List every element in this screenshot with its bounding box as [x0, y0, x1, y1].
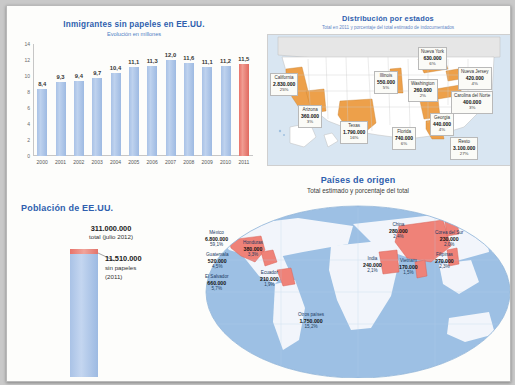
world-map-section: Países de origen Total estimado y porcen…: [203, 174, 511, 379]
bar-category-label: 2004: [110, 159, 121, 165]
bar-rect: [111, 73, 121, 156]
bar-column[interactable]: 8,42000: [37, 44, 47, 156]
world-map-frame: México6.800.00059,1%Guatemala520.0004,5%…: [203, 200, 511, 378]
state-callout[interactable]: Resto3.100.00027%: [450, 137, 478, 160]
state-callout[interactable]: Carolina del Norte400.0003%: [451, 91, 493, 114]
bar-category-label: 2006: [147, 159, 158, 165]
bar-column[interactable]: 10,42004: [111, 44, 121, 156]
country-percent: 59,1%: [205, 242, 228, 248]
y-axis-tick: 0: [27, 153, 30, 159]
bar-value-label: 8,4: [38, 81, 46, 87]
bar-rect: [74, 81, 84, 156]
country-label[interactable]: India240.0002,1%: [363, 256, 382, 274]
country-label[interactable]: El Salvador660.0005,7%: [205, 274, 229, 292]
bar-column[interactable]: 11,22010: [221, 44, 231, 156]
state-callout[interactable]: Georgia440.0004%: [430, 113, 454, 136]
y-axis-tick: 2: [27, 137, 30, 143]
state-callout[interactable]: Washington260.0002%: [408, 79, 438, 102]
state-percent: 3%: [301, 119, 319, 125]
bar-value-label: 11,1: [202, 59, 213, 65]
bar-value-label: 11,3: [147, 58, 158, 64]
bar-category-label: 2008: [183, 159, 194, 165]
country-label[interactable]: Otros países1.750.00015,2%: [298, 312, 324, 330]
state-percent: 5%: [377, 85, 395, 91]
bar-value-label: 11,2: [220, 58, 231, 64]
infographic-poster: Inmigrantes sin papeles en EE.UU. Evoluc…: [6, 5, 511, 382]
country-percent: 4,5%: [206, 264, 228, 270]
us-map-title: Distribución por estados: [263, 14, 511, 24]
state-callout[interactable]: Arizona360.0003%: [298, 105, 322, 128]
us-map-section: Distribución por estados Total en 2011 y…: [263, 14, 511, 172]
country-percent: 5,7%: [205, 286, 229, 292]
country-label[interactable]: Corea del Sur230.0002,0%: [435, 230, 463, 248]
country-label[interactable]: México6.800.00059,1%: [205, 230, 228, 248]
population-total-label: total (julio 2012): [51, 233, 171, 240]
bar-value-label: 9,7: [93, 70, 101, 76]
population-undocumented-value: 11.510.000: [105, 254, 195, 263]
state-callout[interactable]: Nueva York630.0006%: [418, 47, 447, 70]
bar-chart-plot: 02468101214 8,420009,320019,420029,72003…: [33, 44, 253, 156]
bar-column[interactable]: 9,42002: [74, 44, 84, 156]
state-percent: 27%: [453, 151, 475, 157]
bar-value-label: 11,6: [183, 55, 194, 61]
world-map-title: Países de origen: [203, 174, 511, 186]
state-callout[interactable]: Florida740.0006%: [392, 127, 416, 150]
bar-category-label: 2003: [92, 159, 103, 165]
bar-value-label: 11,1: [128, 59, 139, 65]
state-percent: 6%: [395, 141, 413, 147]
country-percent: 1,9%: [260, 282, 279, 288]
state-callout[interactable]: Nueva Jersey420.0004%: [458, 67, 492, 90]
country-percent: 2,0%: [435, 242, 463, 248]
bar-category-label: 2000: [37, 159, 48, 165]
population-total-callout: 311.000.000 total (julio 2012): [51, 224, 171, 240]
population-bar: [70, 249, 98, 377]
state-percent: 4%: [433, 127, 451, 133]
bar-column[interactable]: 11,32006: [147, 44, 157, 156]
world-map-subtitle: Total estimado y porcentaje del total: [203, 186, 511, 195]
country-percent: 1,5%: [399, 270, 418, 276]
state-percent: 25%: [273, 87, 295, 93]
y-axis-tick: 10: [24, 73, 30, 79]
state-percent: 16%: [343, 135, 365, 141]
y-axis-line: [33, 44, 34, 156]
bar-category-label: 2010: [220, 159, 231, 165]
bar-rect: [147, 66, 157, 156]
population-undocumented-label: sin papeles: [105, 263, 195, 272]
bar-chart-section: Inmigrantes sin papeles en EE.UU. Evoluc…: [11, 20, 257, 180]
bar-column[interactable]: 11,62008: [184, 44, 194, 156]
bar-column[interactable]: 12,02007: [166, 44, 176, 156]
y-axis-tick: 8: [27, 89, 30, 95]
bar-column[interactable]: 11,12009: [202, 44, 212, 156]
country-label[interactable]: Filipinas270.0002,3%: [435, 252, 454, 270]
state-callout[interactable]: California2.830.00025%: [270, 73, 298, 96]
country-label[interactable]: Ecuador210.0001,9%: [260, 270, 279, 288]
bar-chart-subtitle: Evolución en millones: [11, 30, 257, 38]
state-percent: 2%: [411, 93, 435, 99]
country-percent: 15,2%: [298, 324, 324, 330]
bar-column[interactable]: 9,32001: [56, 44, 66, 156]
country-label[interactable]: Guatemala520.0004,5%: [206, 252, 228, 270]
bar-rect: [129, 67, 139, 156]
country-label[interactable]: Vietnam170.0001,5%: [399, 258, 418, 276]
country-label[interactable]: China280.0002,4%: [389, 222, 408, 240]
bar-rect: [56, 82, 66, 156]
state-callout[interactable]: Texas1.790.00016%: [340, 121, 368, 144]
bar-value-label: 9,4: [75, 73, 83, 79]
y-axis-tick: 12: [24, 57, 30, 63]
bar-column[interactable]: 11,12005: [129, 44, 139, 156]
population-title: Población de EE.UU.: [21, 202, 201, 214]
bar-category-label: 2002: [73, 159, 84, 165]
bar-value-label: 9,3: [56, 74, 64, 80]
y-axis-tick: 4: [27, 121, 30, 127]
bar-column[interactable]: 9,72003: [92, 44, 102, 156]
bar-category-label: 2001: [55, 159, 66, 165]
bar-column[interactable]: 11,52011: [239, 44, 249, 156]
bar-rect: [202, 67, 212, 156]
bar-value-label: 11,5: [238, 56, 249, 62]
country-percent: 2,1%: [363, 268, 382, 274]
country-label[interactable]: Honduras380.0003,3%: [243, 240, 263, 258]
bar-category-label: 2005: [128, 159, 139, 165]
country-percent: 3,3%: [243, 252, 263, 258]
state-callout[interactable]: Illinois550.0005%: [374, 71, 398, 94]
state-percent: 3%: [454, 105, 490, 111]
